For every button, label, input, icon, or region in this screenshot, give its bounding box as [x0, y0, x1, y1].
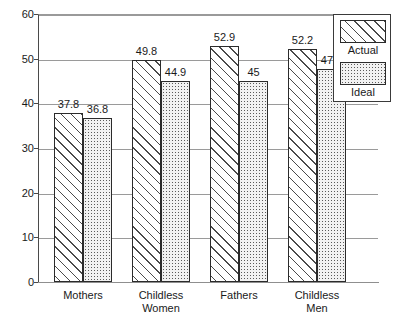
y-tick-mark: [34, 103, 38, 104]
bar-actual-3: [288, 49, 317, 282]
bar-value-label: 45: [233, 67, 274, 78]
y-tick-label: 10: [8, 232, 34, 243]
legend-entry-ideal: Ideal: [340, 62, 386, 99]
y-tick-label: 30: [8, 143, 34, 154]
category-label-2: Fathers: [194, 289, 284, 302]
chart-legend: Actual Ideal: [333, 14, 391, 102]
bar-value-label: 52.2: [282, 35, 323, 46]
bar-ideal-0: [83, 118, 112, 282]
y-tick-mark: [34, 148, 38, 149]
category-label-1: Childless Women: [116, 289, 206, 315]
y-tick-mark: [34, 59, 38, 60]
y-tick-mark: [34, 237, 38, 238]
legend-label-actual: Actual: [340, 44, 386, 57]
bar-actual-1: [132, 60, 161, 282]
y-tick-label: 40: [8, 98, 34, 109]
category-label-0: Mothers: [38, 289, 128, 302]
category-label-3: Childless Men: [272, 289, 362, 315]
bar-value-label: 36.8: [77, 104, 118, 115]
bar-actual-0: [54, 113, 83, 282]
legend-label-ideal: Ideal: [340, 86, 386, 99]
bar-ideal-1: [161, 81, 190, 282]
bar-value-label: 49.8: [126, 46, 167, 57]
bar-chart: 0102030405060 37.836.849.844.952.94552.2…: [0, 0, 397, 329]
x-axis-baseline: [38, 282, 379, 283]
bar-value-label: 52.9: [204, 32, 245, 43]
y-tick-label: 20: [8, 188, 34, 199]
bar-ideal-2: [239, 81, 268, 282]
bar-value-label: 44.9: [155, 67, 196, 78]
y-tick-label: 60: [8, 9, 34, 20]
legend-swatch-actual: [340, 20, 386, 43]
legend-entry-actual: Actual: [340, 20, 386, 57]
y-tick-mark: [34, 193, 38, 194]
y-tick-label: 50: [8, 54, 34, 65]
bar-actual-2: [210, 46, 239, 282]
y-tick-mark: [34, 14, 38, 15]
y-tick-label: 0: [8, 277, 34, 288]
y-tick-mark: [34, 282, 38, 283]
gridline: [39, 15, 378, 16]
legend-swatch-ideal: [340, 62, 386, 85]
